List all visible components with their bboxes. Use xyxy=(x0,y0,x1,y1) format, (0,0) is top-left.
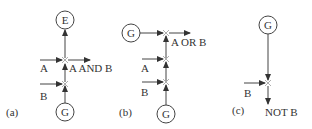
caption-a: (a) xyxy=(6,106,19,119)
node-e-label: E xyxy=(62,14,69,26)
caption-c: (c) xyxy=(232,104,245,117)
input-a-label: A xyxy=(141,62,149,74)
logic-gates-diagram: E G A B A AND B (a) G G xyxy=(0,0,312,129)
input-b-label: B xyxy=(40,90,47,102)
node-g-label: G xyxy=(264,19,272,31)
input-a-label: A xyxy=(40,62,48,74)
node-g-top-label: G xyxy=(127,27,135,39)
panel-b-or: G G A OR B A B (b) xyxy=(119,24,206,123)
node-g-bottom-label: G xyxy=(61,106,69,118)
caption-b: (b) xyxy=(119,106,132,119)
node-g-bottom-label: G xyxy=(162,108,170,120)
panel-a-and: E G A B A AND B (a) xyxy=(6,11,112,121)
input-b-label: B xyxy=(141,86,148,98)
junction-top xyxy=(163,30,169,36)
panel-c-not: G NOT B B (c) xyxy=(232,16,298,118)
input-b-label: B xyxy=(244,87,251,99)
result-not-label: NOT B xyxy=(265,106,298,118)
result-and-label: A AND B xyxy=(69,62,112,74)
result-or-label: A OR B xyxy=(171,36,206,48)
junction-b xyxy=(265,80,271,86)
